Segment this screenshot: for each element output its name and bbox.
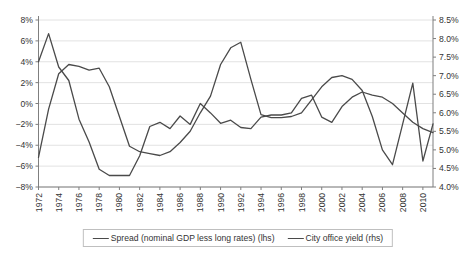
right-axis-label: 5.5% xyxy=(439,126,459,136)
legend-item-spread: Spread (nominal GDP less long rates) (lh… xyxy=(93,233,275,243)
dual-axis-line-chart: 8%6%4%2%0%−2%−4%−6%−8%8.5%8.0%7.5%7.0%6.… xyxy=(0,0,476,261)
x-axis-label: 1976 xyxy=(74,193,84,212)
legend: Spread (nominal GDP less long rates) (lh… xyxy=(83,229,393,247)
x-axis-label: 2008 xyxy=(398,193,408,212)
x-axis-label: 2010 xyxy=(418,193,428,212)
left-axis-label: 6% xyxy=(21,36,34,46)
x-axis-label: 1996 xyxy=(276,193,286,212)
x-axis-label: 1984 xyxy=(155,193,165,212)
x-axis-label: 1982 xyxy=(135,193,145,212)
x-axis-label: 1974 xyxy=(54,193,64,212)
left-axis-label: −8% xyxy=(16,182,34,192)
right-axis-label: 4.5% xyxy=(439,163,459,173)
left-axis-label: 2% xyxy=(21,78,34,88)
right-axis-label: 6.5% xyxy=(439,89,459,99)
plot-canvas: 8%6%4%2%0%−2%−4%−6%−8%8.5%8.0%7.5%7.0%6.… xyxy=(0,0,476,261)
left-axis-label: 8% xyxy=(21,15,34,25)
left-axis-label: 0% xyxy=(21,99,34,109)
legend-item-yield: City office yield (rhs) xyxy=(287,233,383,243)
x-axis-label: 1972 xyxy=(34,193,44,212)
spread-series-line xyxy=(39,34,434,176)
right-axis-label: 5.0% xyxy=(439,145,459,155)
x-axis-label: 2006 xyxy=(377,193,387,212)
x-axis-label: 1988 xyxy=(195,193,205,212)
legend-label-spread: Spread (nominal GDP less long rates) (lh… xyxy=(111,233,275,243)
right-axis-label: 7.5% xyxy=(439,52,459,62)
right-axis-label: 7.0% xyxy=(439,71,459,81)
left-axis-label: −2% xyxy=(16,119,34,129)
x-axis-label: 1992 xyxy=(236,193,246,212)
yield-line-swatch-icon xyxy=(287,238,303,239)
x-axis-label: 1980 xyxy=(114,193,124,212)
x-axis-label: 1986 xyxy=(175,193,185,212)
right-axis-label: 8.5% xyxy=(439,15,459,25)
x-axis-label: 1998 xyxy=(297,193,307,212)
x-axis-label: 2002 xyxy=(337,193,347,212)
x-axis-label: 1990 xyxy=(216,193,226,212)
x-axis-label: 2004 xyxy=(357,193,367,212)
left-axis-label: 4% xyxy=(21,57,34,67)
x-axis-label: 1978 xyxy=(94,193,104,212)
right-axis-label: 4.0% xyxy=(439,182,459,192)
left-axis-label: −4% xyxy=(16,140,34,150)
x-axis-label: 1994 xyxy=(256,193,266,212)
right-axis-label: 6.0% xyxy=(439,108,459,118)
right-axis-label: 8.0% xyxy=(439,34,459,44)
left-axis-label: −6% xyxy=(16,161,34,171)
x-axis-label: 2000 xyxy=(317,193,327,212)
spread-line-swatch-icon xyxy=(93,238,109,239)
legend-label-yield: City office yield (rhs) xyxy=(305,233,383,243)
